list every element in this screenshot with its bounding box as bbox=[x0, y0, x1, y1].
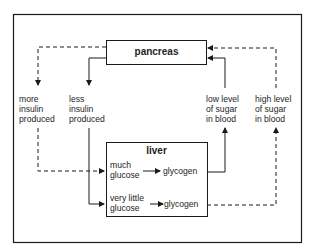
glycogen-bottom-label: glycogen bbox=[164, 199, 198, 209]
label-line: in blood bbox=[206, 114, 239, 124]
label-line: very little bbox=[110, 193, 144, 203]
glycogen-top-label: glycogen bbox=[163, 166, 197, 176]
pancreas-label: pancreas bbox=[106, 47, 207, 57]
more-insulin-label: more insulin produced bbox=[19, 94, 55, 124]
label-line: insulin bbox=[19, 104, 55, 114]
edge-more-insulin-much-glucose bbox=[38, 128, 104, 171]
label-line: insulin bbox=[69, 104, 105, 114]
edge-pancreas-more-insulin bbox=[38, 47, 106, 85]
label-line: less bbox=[69, 94, 105, 104]
high-sugar-label: high level of sugar in blood bbox=[255, 94, 291, 124]
edge-less-insulin-little-glucose bbox=[89, 128, 104, 204]
edge-glycogen-low-sugar bbox=[207, 128, 225, 172]
much-glucose-label: much glucose bbox=[110, 160, 140, 180]
label-line: more bbox=[19, 94, 55, 104]
label-line: much bbox=[110, 160, 140, 170]
label-line: glucose bbox=[110, 203, 144, 213]
edge-glycogen-high-sugar bbox=[207, 128, 276, 205]
label-line: of sugar bbox=[255, 104, 291, 114]
less-insulin-label: less insulin produced bbox=[69, 94, 105, 124]
very-little-glucose-label: very little glucose bbox=[110, 193, 144, 213]
label-line: of sugar bbox=[206, 104, 239, 114]
label-line: high level bbox=[255, 94, 291, 104]
label-line: glucose bbox=[110, 170, 140, 180]
label-line: low level bbox=[206, 94, 239, 104]
edge-high-sugar-pancreas bbox=[208, 48, 276, 88]
label-line: produced bbox=[19, 114, 55, 124]
diagram-canvas bbox=[0, 0, 313, 252]
edge-pancreas-less-insulin bbox=[89, 58, 106, 85]
edge-low-sugar-pancreas bbox=[208, 58, 225, 88]
low-sugar-label: low level of sugar in blood bbox=[206, 94, 239, 124]
label-line: produced bbox=[69, 114, 105, 124]
label-line: in blood bbox=[255, 114, 291, 124]
liver-label: liver bbox=[106, 146, 207, 156]
